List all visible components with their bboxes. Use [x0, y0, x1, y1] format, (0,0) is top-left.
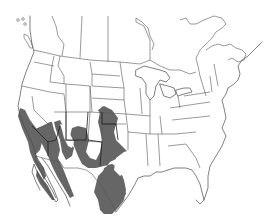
atlantic-coastline — [204, 42, 262, 200]
island-3 — [24, 23, 27, 26]
island-2 — [22, 18, 25, 21]
island-1 — [17, 19, 20, 22]
range-map — [0, 0, 273, 217]
canada-province-ab-sk — [80, 16, 82, 58]
canada-us-border — [34, 50, 196, 74]
state-borders-west — [22, 56, 92, 126]
canada-province-mb-on — [136, 18, 150, 60]
outlines — [18, 16, 262, 212]
state-borders-east — [126, 64, 218, 168]
range-area-california-baja — [18, 108, 46, 180]
quebec-labrador — [180, 16, 226, 66]
canada-province-bc-ab — [52, 16, 64, 56]
great-lakes — [136, 66, 192, 100]
gulf-coastline — [116, 168, 204, 212]
north-america-map-svg — [0, 0, 273, 217]
range-shading — [18, 106, 128, 214]
gulf-st-lawrence — [206, 44, 246, 62]
pacific-coastline — [18, 16, 58, 202]
hudson-bay-coast — [136, 18, 154, 50]
